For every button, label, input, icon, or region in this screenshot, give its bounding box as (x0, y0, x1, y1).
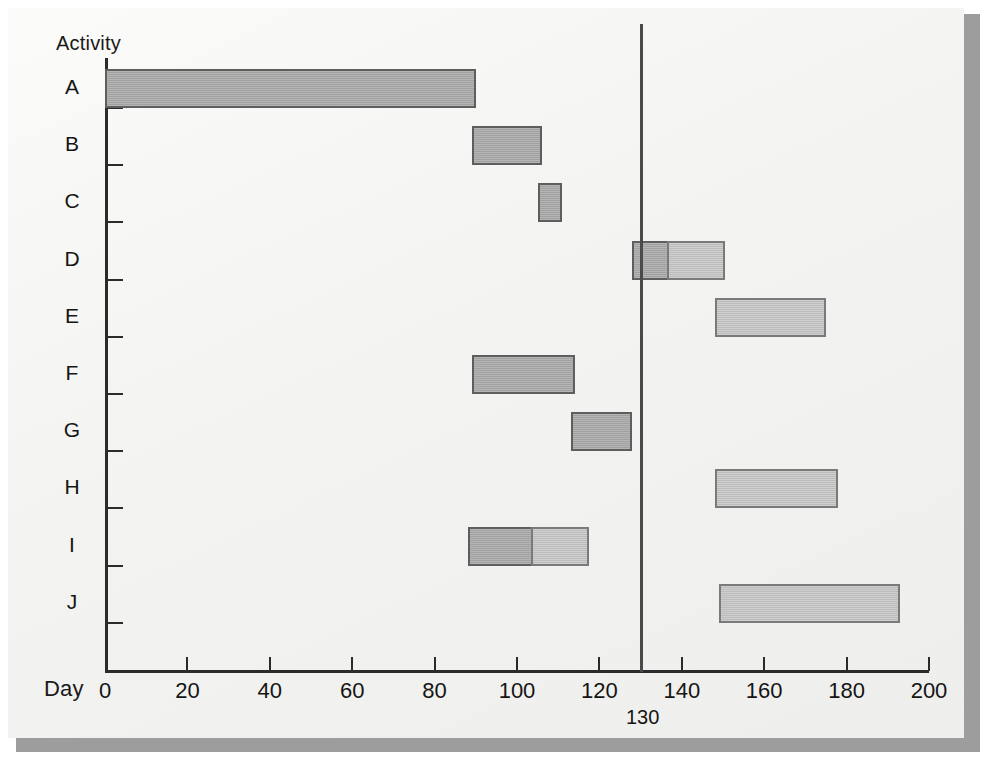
y-tick-e (105, 336, 123, 338)
x-tick-label-0: 0 (75, 678, 135, 704)
y-tick-d (105, 279, 123, 281)
x-tick-label-20: 20 (157, 678, 217, 704)
gantt-bar-d-main (632, 241, 669, 280)
y-tick-j (105, 622, 123, 624)
y-tick-label-j: J (50, 590, 94, 614)
gantt-bar-i-main (468, 527, 534, 566)
gantt-bar-h-float (715, 469, 839, 508)
y-tick-b (105, 164, 123, 166)
y-tick-f (105, 393, 123, 395)
x-tick-label-180: 180 (817, 678, 877, 704)
scanned-page: Activity Day ABCDEFGHIJ 0204060801001201… (8, 8, 964, 738)
page-surface: Activity Day ABCDEFGHIJ 0204060801001201… (8, 8, 964, 738)
y-tick-label-g: G (50, 418, 94, 442)
x-tick-40 (269, 657, 271, 671)
x-tick-label-80: 80 (405, 678, 465, 704)
y-tick-c (105, 221, 123, 223)
y-tick-label-e: E (50, 304, 94, 328)
y-axis-title: Activity (56, 32, 121, 55)
x-tick-label-200: 200 (899, 678, 959, 704)
x-tick-180 (846, 657, 848, 671)
y-tick-label-d: D (50, 247, 94, 271)
gantt-chart-plot: Activity Day ABCDEFGHIJ 0204060801001201… (8, 8, 964, 738)
x-tick-60 (351, 657, 353, 671)
reference-line-130 (640, 24, 643, 672)
gantt-bar-c-main (538, 183, 563, 222)
x-tick-200 (928, 657, 930, 671)
y-tick-label-h: H (50, 475, 94, 499)
y-tick-i (105, 565, 123, 567)
x-tick-label-100: 100 (487, 678, 547, 704)
y-tick-label-a: A (50, 75, 94, 99)
x-tick-label-60: 60 (322, 678, 382, 704)
gantt-bar-f-main (472, 355, 575, 394)
y-tick-g (105, 450, 123, 452)
x-tick-120 (598, 657, 600, 671)
y-tick-label-b: B (50, 132, 94, 156)
reference-line-label: 130 (613, 706, 673, 729)
x-tick-140 (681, 657, 683, 671)
x-tick-label-120: 120 (569, 678, 629, 704)
x-tick-160 (763, 657, 765, 671)
gantt-bar-i-float (531, 527, 589, 566)
y-tick-h (105, 507, 123, 509)
x-tick-100 (516, 657, 518, 671)
gantt-bar-j-float (719, 584, 900, 623)
x-tick-20 (186, 657, 188, 671)
y-axis-line (105, 58, 108, 672)
gantt-bar-a-main (105, 69, 476, 108)
x-tick-label-160: 160 (734, 678, 794, 704)
y-tick-label-f: F (50, 361, 94, 385)
y-tick-label-c: C (50, 189, 94, 213)
x-tick-label-140: 140 (652, 678, 712, 704)
gantt-bar-d-float (667, 241, 725, 280)
x-tick-label-40: 40 (240, 678, 300, 704)
gantt-bar-b-main (472, 126, 542, 165)
x-tick-80 (434, 657, 436, 671)
gantt-bar-g-main (571, 412, 633, 451)
gantt-bar-e-float (715, 298, 826, 337)
y-tick-label-i: I (50, 533, 94, 557)
